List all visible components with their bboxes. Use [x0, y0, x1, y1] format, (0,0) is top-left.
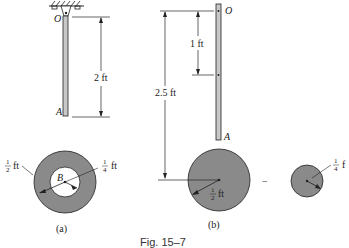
inner-radius-unit: ft [111, 160, 117, 171]
svg-text:2: 2 [211, 194, 215, 202]
dimension-1ft: 1 ft [190, 38, 204, 49]
dimension-2ft: 2 ft [94, 72, 108, 83]
svg-text:1: 1 [103, 158, 107, 166]
point-b-label: B [57, 172, 63, 183]
rod-b [216, 4, 221, 140]
svg-text:2: 2 [6, 166, 10, 174]
panel-a: O A 2 ft B 1 2 ft 1 4 ft (a) [5, 1, 117, 235]
panel-a-label: (a) [56, 223, 67, 235]
figure-caption: Fig. 15–7 [140, 236, 186, 248]
outer-radius-unit: ft [13, 160, 19, 171]
figure-canvas: O A 2 ft B 1 2 ft 1 4 ft (a) [0, 0, 349, 248]
minus-operator: − [262, 176, 268, 187]
panel-b-label: (b) [208, 219, 220, 231]
point-o-label: O [54, 13, 61, 24]
point-a-label: A [55, 106, 63, 117]
big-radius-unit: ft [218, 188, 224, 199]
small-radius-unit: f [342, 159, 346, 170]
panel-b: O A 1 ft 2.5 ft 1 2 ft − 1 [155, 4, 346, 231]
svg-text:1: 1 [211, 186, 215, 194]
svg-text:1: 1 [6, 158, 10, 166]
svg-text:1: 1 [334, 157, 338, 165]
rod-a [63, 16, 68, 116]
dimension-2-5ft: 2.5 ft [155, 87, 176, 98]
point-o-label-b: O [225, 5, 232, 16]
point-a-label-b: A [223, 131, 231, 142]
svg-text:4: 4 [334, 165, 338, 173]
svg-text:4: 4 [103, 166, 107, 174]
